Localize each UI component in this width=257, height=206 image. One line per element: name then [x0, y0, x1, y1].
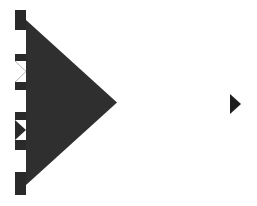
segment-strip [15, 10, 26, 195]
strip-segment-light[interactable] [15, 30, 26, 54]
strip-segment-dark [15, 172, 26, 195]
triangle-right-icon [15, 10, 117, 195]
strip-segment-dark [15, 140, 26, 150]
x-icon [15, 61, 26, 82]
strip-segment-dark [15, 10, 26, 30]
next-arrow-button[interactable] [230, 94, 241, 114]
strip-segment-dark [15, 54, 26, 61]
strip-play-box[interactable] [15, 120, 26, 140]
play-icon [230, 94, 241, 114]
triangle-right-icon [15, 120, 26, 140]
strip-segment-dark [15, 82, 26, 90]
strip-close-box[interactable] [15, 61, 26, 82]
strip-segment-light[interactable] [15, 150, 26, 172]
strip-segment-dark [15, 112, 26, 120]
strip-segment-light[interactable] [15, 90, 26, 112]
expand-arrow-button[interactable] [15, 10, 117, 195]
